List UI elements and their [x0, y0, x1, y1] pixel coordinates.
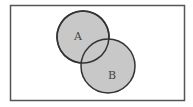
set-b-circle [81, 39, 135, 93]
set-b-label: B [108, 69, 116, 82]
set-a-label: A [73, 30, 83, 43]
venn-diagram: A B [0, 0, 193, 107]
